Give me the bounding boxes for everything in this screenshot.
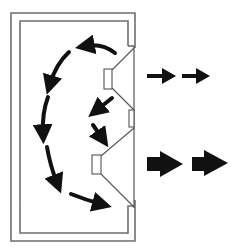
reflection-arrow-top	[86, 45, 115, 53]
reflection-arrow-center	[93, 125, 102, 138]
reflection-arrow-lower-left	[47, 147, 57, 183]
port-block	[129, 110, 134, 127]
speaker-diagram: Speaker enclosure sound wave diagram	[0, 0, 239, 248]
tweeter-output-arrows	[147, 68, 210, 84]
large-arrow-right-icon	[147, 151, 183, 177]
diagram-canvas	[0, 0, 239, 248]
small-arrow-right-icon	[182, 68, 210, 84]
reflection-arrow-tweeter-back	[97, 98, 112, 110]
large-arrow-right-icon	[192, 150, 228, 176]
reflection-arrow-upper-left	[50, 52, 69, 84]
reflection-arrow-bottom	[71, 194, 101, 204]
small-arrow-right-icon	[147, 68, 176, 84]
cabinet-outer-wall	[11, 13, 135, 241]
woofer-driver	[92, 128, 134, 207]
woofer-output-arrows	[147, 150, 228, 177]
reflection-arrow-left	[43, 97, 48, 133]
